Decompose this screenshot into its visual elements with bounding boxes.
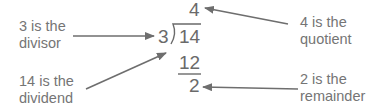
quotient-arrow [205, 8, 288, 24]
dividend-label-line2: dividend [19, 90, 74, 107]
remainder-label-line1: 2 is the [300, 71, 365, 88]
divisor-value: 3 [158, 27, 169, 46]
dividend-label-line1: 14 is the [19, 73, 74, 90]
dividend-label: 14 is the dividend [19, 73, 74, 107]
remainder-arrow [203, 87, 298, 89]
product-value: 12 [179, 53, 200, 72]
remainder-label: 2 is the remainder [300, 71, 365, 105]
quotient-value: 4 [189, 0, 200, 19]
dividend-value: 14 [179, 27, 200, 46]
quotient-label-line1: 4 is the [300, 14, 352, 31]
dividend-arrow [86, 53, 166, 89]
remainder-label-line2: remainder [300, 88, 365, 105]
remainder-value: 2 [189, 76, 200, 95]
divisor-label-line2: divisor [19, 35, 66, 52]
quotient-label-line2: quotient [300, 31, 352, 48]
quotient-label: 4 is the quotient [300, 14, 352, 48]
divisor-label-line1: 3 is the [19, 18, 66, 35]
divisor-label: 3 is the divisor [19, 18, 66, 52]
